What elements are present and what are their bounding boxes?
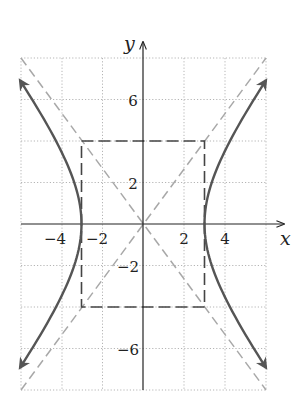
y-tick-label: 2 [128,175,138,193]
x-tick-label: 2 [179,230,189,248]
y-axis-label: y [123,32,135,54]
y-tick-label: −6 [117,341,139,359]
y-tick-label: 6 [128,92,138,110]
x-tick-label: −4 [44,230,66,248]
y-tick-label: −2 [117,258,139,276]
hyperbola-chart: −4 −2 2 4 6 2 −2 −6 x y [0,0,295,416]
x-tick-label: 4 [220,230,230,248]
x-axis-label: x [280,227,291,249]
x-tick-label: −2 [86,230,108,248]
